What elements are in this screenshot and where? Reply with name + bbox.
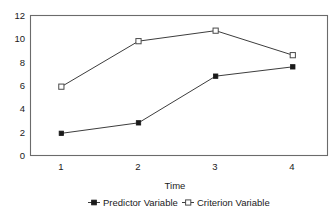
legend-label-predictor: Predictor Variable: [103, 197, 178, 208]
x-tick-label-4: 4: [289, 161, 294, 172]
data-point-marker: [136, 121, 140, 125]
line-chart: 12 10 8 6 4 2 0 1 2 3 4 Time: [0, 0, 336, 215]
y-tick-label-8: 8: [20, 57, 25, 68]
data-point-marker: [290, 53, 295, 58]
x-axis-title: Time: [165, 180, 186, 191]
data-point-marker: [213, 74, 217, 78]
y-tick-label-0: 0: [20, 150, 25, 161]
y-tick-label-10: 10: [14, 33, 25, 44]
data-point-marker: [291, 65, 295, 69]
data-point-marker: [59, 131, 63, 135]
legend-label-criterion: Criterion Variable: [197, 197, 270, 208]
y-tick-label-6: 6: [20, 80, 25, 91]
x-tick-label-1: 1: [58, 161, 63, 172]
data-point-marker: [59, 84, 64, 89]
y-tick-label-4: 4: [20, 103, 25, 114]
y-tick-label-2: 2: [20, 127, 25, 138]
x-tick-label-3: 3: [212, 161, 217, 172]
chart-canvas: 12 10 8 6 4 2 0 1 2 3 4 Time: [0, 0, 336, 215]
data-point-marker: [213, 28, 218, 33]
x-tick-label-2: 2: [135, 161, 140, 172]
filled-square-marker-icon: [92, 200, 97, 205]
y-tick-label-12: 12: [14, 10, 25, 21]
data-point-marker: [136, 39, 141, 44]
open-square-marker-icon: [186, 200, 191, 205]
